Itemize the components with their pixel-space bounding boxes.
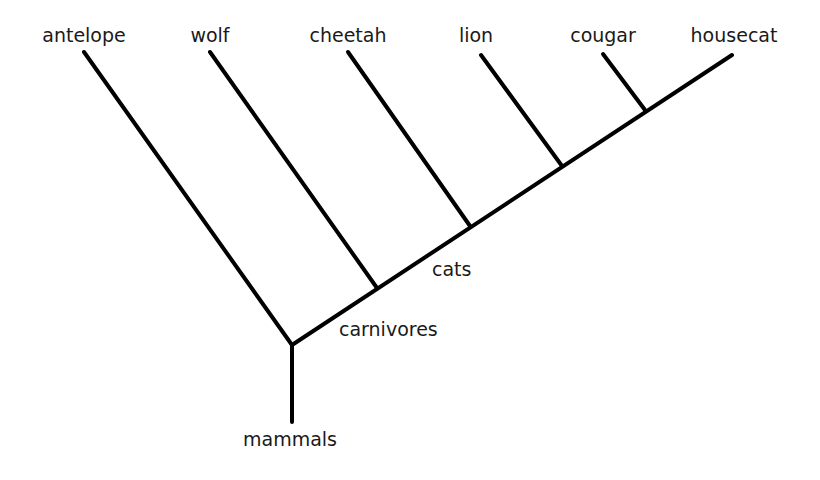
leaf-label-cougar: cougar [570,26,636,45]
leaf-label-antelope: antelope [42,26,125,45]
clade-label-carnivores: carnivores [339,320,438,339]
branch-cougar [603,54,645,110]
leaf-label-cheetah: cheetah [309,26,386,45]
leaf-label-wolf: wolf [190,26,229,45]
branch-cheetah [348,52,470,226]
leaf-label-lion: lion [459,26,493,45]
branch-lion [481,55,562,166]
branch-wolf [210,52,377,288]
branch-antelope [84,52,292,345]
clade-label-cats: cats [432,260,471,279]
clade-label-mammals: mammals [243,430,337,449]
cladogram-lines [0,0,820,480]
leaf-label-housecat: housecat [691,26,778,45]
